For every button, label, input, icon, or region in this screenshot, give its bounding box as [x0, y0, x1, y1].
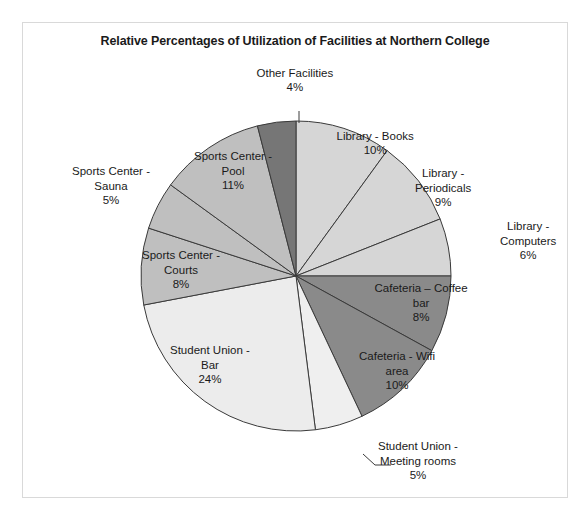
pie-slice-label: Student Union -Meeting rooms5%	[378, 439, 458, 483]
pie-slice-label: Cafeteria – Coffeebar8%	[375, 281, 468, 325]
pie-slice-value: 24%	[170, 372, 250, 387]
pie-slice-label: Sports Center -Courts8%	[142, 248, 220, 292]
pie-slice-name: Library - Books	[337, 129, 414, 144]
pie-slice-label: Library - Books10%	[337, 129, 414, 158]
pie-slice-name: Cafeteria – Coffee	[375, 281, 468, 296]
chart-frame: Relative Percentages of Utilization of F…	[22, 22, 568, 498]
pie-slice-value: 11%	[194, 178, 272, 193]
pie-slice-value: 6%	[500, 248, 556, 263]
pie-slice-label: Other Facilities4%	[257, 66, 334, 95]
pie-slice-value: 10%	[359, 378, 435, 393]
pie-slice-name: Sports Center -	[142, 248, 220, 263]
pie-slice-label: Student Union -Bar24%	[170, 343, 250, 387]
pie-slice-name: Sauna	[72, 179, 150, 194]
pie-slice-value: 5%	[378, 468, 458, 483]
pie-slice-label: Sports Center -Sauna5%	[72, 164, 150, 208]
pie-slice-name: Sports Center -	[194, 149, 272, 164]
pie-slice-label: Library -Computers6%	[500, 219, 556, 263]
pie-slice-value: 8%	[142, 277, 220, 292]
pie-slice-name: Student Union -	[378, 439, 458, 454]
pie-slice-name: Library -	[415, 166, 471, 181]
pie-slice-name: Courts	[142, 263, 220, 278]
pie-slice-value: 10%	[337, 143, 414, 158]
pie-slice-value: 8%	[375, 310, 468, 325]
pie-slice-value: 9%	[415, 195, 471, 210]
pie-slice-name: area	[359, 364, 435, 379]
pie-slice-name: Bar	[170, 358, 250, 373]
pie-slice-name: Student Union -	[170, 343, 250, 358]
pie-slice-label: Sports Center -Pool11%	[194, 149, 272, 193]
pie-slice-name: Other Facilities	[257, 66, 334, 81]
pie-slice-name: Pool	[194, 164, 272, 179]
pie-slice-name: Computers	[500, 234, 556, 249]
pie-slice-name: Periodicals	[415, 181, 471, 196]
pie-slice-name: Sports Center -	[72, 164, 150, 179]
pie-slice-label: Library -Periodicals9%	[415, 166, 471, 210]
pie-slice-label: Cafeteria - Wifiarea10%	[359, 349, 435, 393]
pie-slice-name: Cafeteria - Wifi	[359, 349, 435, 364]
pie-slice-value: 5%	[72, 193, 150, 208]
pie-slice-value: 4%	[257, 80, 334, 95]
pie-slice-name: Library -	[500, 219, 556, 234]
pie-slice-name: bar	[375, 296, 468, 311]
pie-slice-name: Meeting rooms	[378, 454, 458, 469]
